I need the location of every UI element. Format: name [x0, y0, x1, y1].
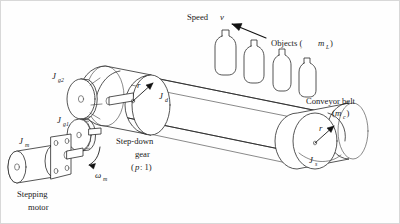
idler-roller-far-face: [338, 103, 368, 159]
conveyor-system-diagram: Speed v Objects ( m L ) Conveyor belt ( …: [1, 1, 400, 224]
label-inertia-gear1-subscript: g1: [63, 121, 69, 127]
bottle-1: [215, 30, 236, 75]
label-radius-idler: r: [319, 123, 323, 133]
label-step-down-gear-ratio-rest: : 1): [140, 162, 152, 172]
label-objects: Objects ( m L ): [271, 38, 333, 50]
gear-upper: [67, 79, 97, 119]
label-objects-symbol: m: [318, 38, 324, 48]
label-inertia-gear2: J g2: [52, 71, 64, 83]
label-stepping-motor: Stepping motor: [17, 189, 49, 212]
label-step-down-gear-line1: Step-down: [116, 136, 154, 146]
label-objects-text: Objects (: [271, 38, 302, 48]
bottle-4: [299, 58, 316, 97]
label-stepping-motor-line2: motor: [28, 202, 49, 212]
omega-rotation-arrow: [89, 147, 100, 169]
omega-arrow-arc: [89, 147, 100, 165]
label-speed-symbol: v: [220, 12, 224, 22]
gear-upper-face: [67, 79, 95, 119]
label-inertia-gear2-symbol: J: [52, 71, 57, 81]
label-radius-drive: r: [137, 80, 141, 90]
label-objects-subscript: L: [325, 44, 329, 50]
bottle-3: [273, 49, 291, 91]
label-inertia-gear1-symbol: J: [57, 115, 62, 125]
label-stepping-motor-line1: Stepping: [17, 189, 48, 199]
label-speed-text: Speed: [187, 12, 209, 22]
conveyor-belt-assembly: [79, 66, 368, 169]
label-step-down-gear-line2: gear: [135, 149, 150, 159]
label-omega-m-symbol: ω: [95, 170, 101, 180]
label-inertia-motor-symbol: J: [19, 136, 24, 146]
label-objects-close: ): [330, 38, 333, 48]
label-conveyor-belt-close: ): [347, 108, 350, 118]
label-step-down-gear-ratio-open: (: [131, 162, 134, 172]
label-inertia-gear2-subscript: g2: [58, 77, 64, 83]
label-step-down-gear: Step-down gear ( p : 1): [116, 136, 154, 172]
label-omega-m-subscript: m: [103, 176, 107, 182]
label-conveyor-belt-symbol: m: [335, 108, 341, 118]
figure-canvas: Speed v Objects ( m L ) Conveyor belt ( …: [0, 0, 400, 224]
speed-arrow: [232, 24, 266, 39]
label-inertia-motor-subscript: m: [25, 142, 29, 148]
label-conveyor-belt-line1: Conveyor belt: [306, 96, 356, 106]
bottle-2: [244, 40, 264, 83]
motor-rear-face: [8, 151, 26, 183]
gear-lower-output-shaft: [89, 128, 101, 135]
gear-pair: [67, 79, 97, 151]
label-inertia-drive-drum-subscript: d: [165, 97, 168, 103]
label-speed: Speed v: [187, 12, 224, 22]
label-omega-m: ω m: [95, 170, 107, 182]
label-inertia-motor: J m: [19, 136, 29, 148]
label-inertia-gear1: J g1: [57, 115, 69, 127]
speed-arrow-head: [232, 24, 242, 31]
